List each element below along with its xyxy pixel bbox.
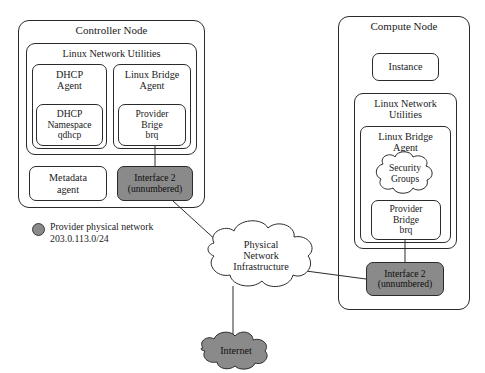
physical-network-cloud-shape bbox=[208, 221, 312, 287]
network-architecture-diagram: Controller Node Linux Network Utilities … bbox=[0, 0, 485, 373]
connector-controller-to-cloud bbox=[173, 201, 219, 243]
diagram-connectors-and-clouds bbox=[0, 0, 485, 373]
internet-cloud-shape bbox=[201, 332, 267, 369]
